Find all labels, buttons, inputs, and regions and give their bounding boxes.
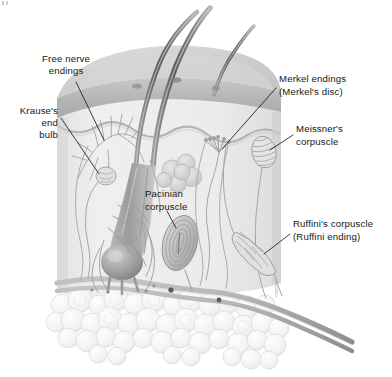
- krauses-end-bulb-line3: bulb: [39, 129, 58, 140]
- krauses-end-bulb-line2: end: [42, 117, 58, 128]
- hair-pore-3: [212, 86, 220, 91]
- free-nerve-endings-line2: endings: [49, 65, 84, 76]
- hair-pore-1: [132, 83, 142, 88]
- pacinian-corpuscle-line1: Pacinian: [145, 188, 183, 199]
- hair-bulb: [101, 244, 143, 280]
- pacinian-corpuscle-line2: corpuscle: [145, 201, 187, 212]
- free-nerve-endings-line1: Free nerve: [42, 53, 90, 64]
- skin-diagram-svg: Free nerve endings Krause's end bulb Mer…: [0, 0, 392, 377]
- meissners-corpuscle-line2: corpuscle: [296, 136, 338, 147]
- skin-receptors-figure: Free nerve endings Krause's end bulb Mer…: [0, 0, 392, 377]
- merkel-endings-line2: (Merkel's disc): [279, 86, 343, 97]
- meissners-corpuscle-line1: Meissner's: [296, 123, 343, 134]
- krauses-end-bulb-line1: Krause's: [20, 105, 58, 116]
- block-left-shade: [57, 118, 68, 295]
- label-free-nerve-endings: Free nerve endings: [42, 53, 90, 76]
- hair-pore-2: [171, 77, 182, 83]
- ruffinis-corpuscle-line2: (Ruffini ending): [293, 231, 360, 242]
- block-right-shade: [272, 112, 281, 285]
- ruffinis-corpuscle-line1: Ruffini's corpuscle: [293, 218, 373, 229]
- merkel-endings-line1: Merkel endings: [279, 73, 346, 84]
